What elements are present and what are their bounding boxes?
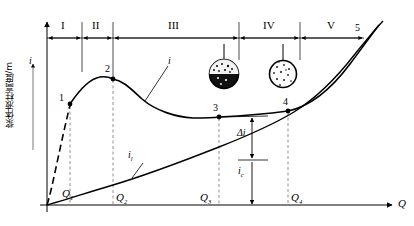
zone-label-4: IV bbox=[263, 20, 275, 31]
q1-base: Q bbox=[62, 187, 70, 199]
ic-label-sub: c bbox=[241, 171, 244, 178]
point-marker-3 bbox=[217, 115, 222, 120]
x-tick-label-q4: Q4 bbox=[291, 192, 302, 206]
q4-sub: 4 bbox=[299, 198, 302, 205]
curve-water-gradient-il bbox=[47, 21, 383, 205]
q-guidelines bbox=[70, 80, 288, 205]
zone-label-5: V bbox=[327, 20, 335, 31]
q3-base: Q bbox=[200, 191, 208, 203]
q3-sub: 3 bbox=[208, 198, 211, 205]
y-axis-symbol: i bbox=[29, 56, 32, 66]
curve-label-il-sub: l bbox=[131, 155, 133, 162]
point-marker-1 bbox=[68, 102, 73, 107]
zone-label-2: II bbox=[92, 20, 99, 31]
curve-label-i: i bbox=[168, 56, 171, 66]
x-tick-label-q1: Q1 bbox=[62, 188, 73, 202]
pipe-outline-2 bbox=[270, 61, 297, 88]
zone-label-1: I bbox=[61, 20, 65, 31]
q1-sub: 1 bbox=[70, 194, 73, 201]
zone-label-3: III bbox=[168, 20, 179, 31]
point-label-1: 1 bbox=[59, 93, 64, 103]
hydraulic-gradient-figure: 浆体液柱高度/m i I II III IV V 1 2 3 4 5 i il … bbox=[0, 0, 414, 226]
x-tick-label-q3: Q3 bbox=[200, 192, 211, 206]
y-axis-label: 浆体液柱高度/m bbox=[2, 62, 15, 128]
pipe-section-suspended bbox=[270, 44, 297, 88]
leader-curve-i bbox=[145, 66, 168, 101]
ic-label: ic bbox=[238, 166, 244, 179]
point-label-4: 4 bbox=[283, 97, 288, 107]
delta-i-label: Δi bbox=[237, 128, 246, 138]
x-axis-symbol: Q bbox=[398, 198, 406, 209]
q2-sub: 2 bbox=[124, 198, 127, 205]
q2-base: Q bbox=[116, 191, 124, 203]
point-label-3: 3 bbox=[213, 103, 218, 113]
curve-label-il: il bbox=[128, 150, 133, 163]
point-markers bbox=[68, 77, 291, 120]
point-marker-2 bbox=[111, 77, 116, 82]
delta-i-measure bbox=[219, 116, 268, 160]
point-marker-4 bbox=[286, 109, 291, 114]
top-right-label-5: 5 bbox=[355, 23, 360, 33]
pipe-section-settled-bed bbox=[210, 44, 239, 89]
x-tick-label-q2: Q2 bbox=[116, 192, 127, 206]
point-label-2: 2 bbox=[105, 64, 110, 74]
q4-base: Q bbox=[291, 191, 299, 203]
